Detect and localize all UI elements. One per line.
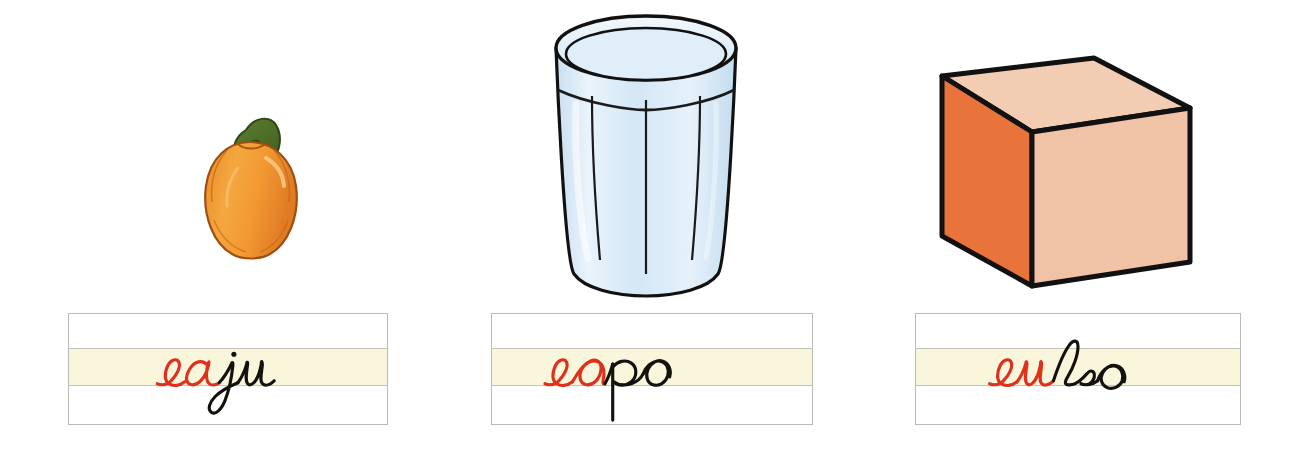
word-syllable-red — [157, 360, 219, 386]
handwritten-word-cubo — [916, 314, 1240, 424]
word-syllable-red — [990, 360, 1054, 386]
cube-icon — [912, 50, 1194, 292]
worksheet-page — [0, 0, 1299, 450]
handwriting-card-cubo — [915, 313, 1241, 425]
cashew-fruit-illustration — [180, 70, 320, 270]
cube-illustration — [912, 50, 1194, 292]
word-rest-black — [605, 361, 670, 420]
handwriting-card-copo — [491, 313, 813, 425]
cashew-fruit-icon — [180, 70, 320, 270]
word-syllable-red — [545, 360, 605, 386]
handwritten-word-copo — [492, 314, 812, 424]
handwritten-word-caju — [69, 314, 387, 424]
word-rest-black — [1053, 341, 1124, 388]
word-rest-black — [209, 352, 274, 413]
glass-icon — [530, 8, 762, 304]
handwriting-card-caju — [68, 313, 388, 425]
drinking-glass-illustration — [530, 8, 762, 304]
